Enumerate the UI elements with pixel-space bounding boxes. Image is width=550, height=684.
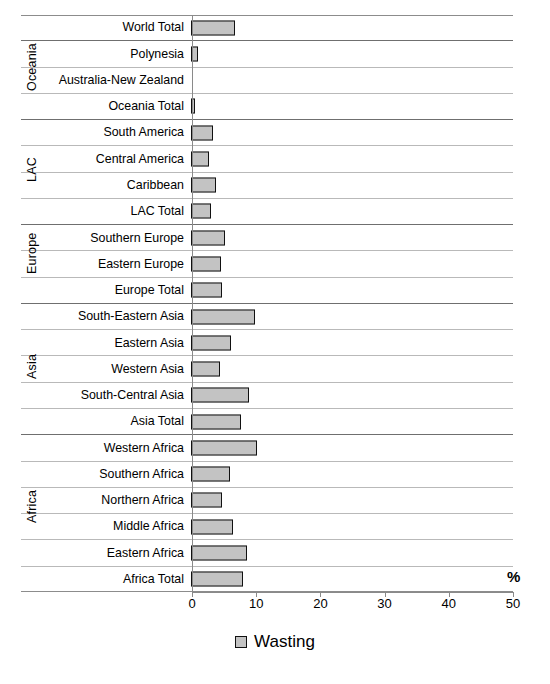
bar[interactable] [191, 309, 255, 324]
bar-row: Caribbean [21, 173, 513, 199]
group-label-slot [21, 199, 43, 224]
group-label-slot [21, 278, 43, 303]
group-label-lac: LAC [25, 160, 39, 182]
bar-track [191, 41, 513, 66]
bar-track [191, 409, 513, 434]
bar-track [191, 146, 513, 171]
bar[interactable] [191, 99, 195, 114]
category-label: Southern Africa [43, 468, 191, 480]
bar-track [191, 251, 513, 276]
category-label: South-Eastern Asia [43, 310, 191, 322]
bar-track [191, 488, 513, 513]
bar-track [191, 462, 513, 487]
group-label-slot [21, 435, 43, 460]
bar-row: Polynesia [21, 41, 513, 67]
bar[interactable] [191, 283, 222, 298]
bar-track [191, 68, 513, 93]
bar-row: Africa Total [21, 567, 513, 592]
group-label-slot [21, 383, 43, 408]
group-label-slot [21, 567, 43, 592]
group-label-africa: Africa [25, 501, 39, 523]
bar-track [191, 514, 513, 539]
bar[interactable] [191, 178, 216, 193]
category-label: Polynesia [43, 48, 191, 60]
bar[interactable] [191, 20, 235, 35]
bar[interactable] [191, 204, 211, 219]
bar[interactable] [191, 493, 222, 508]
bar-row: South-Central Asia [21, 383, 513, 409]
bar[interactable] [191, 230, 225, 245]
bar-track [191, 94, 513, 119]
group-label-oceania: Oceania [25, 69, 39, 91]
category-label: Asia Total [43, 415, 191, 427]
category-label: Eastern Europe [43, 258, 191, 270]
bar[interactable] [191, 257, 221, 272]
category-label: Western Africa [43, 442, 191, 454]
group-label-slot [21, 94, 43, 119]
bar-row: Southern Europe [21, 225, 513, 251]
category-label: Eastern Asia [43, 337, 191, 349]
bar[interactable] [191, 545, 247, 560]
bar[interactable] [191, 572, 243, 587]
bar-track [191, 225, 513, 250]
category-label: Southern Europe [43, 232, 191, 244]
group-label-asia: Asia [25, 357, 39, 379]
bar-track [191, 435, 513, 460]
bar-row: World Total [21, 15, 513, 41]
bar-row: Europe Total [21, 278, 513, 304]
category-label: Northern Africa [43, 494, 191, 506]
bar-row: Middle Africa [21, 514, 513, 540]
bar[interactable] [191, 335, 231, 350]
category-label: Australia-New Zealand [43, 74, 191, 86]
x-axis-tick-label: 20 [313, 596, 327, 611]
category-label: Central America [43, 153, 191, 165]
bar-row: Eastern Europe [21, 251, 513, 277]
bar-track [191, 304, 513, 329]
bar[interactable] [191, 362, 220, 377]
bar-track [191, 567, 513, 592]
bar[interactable] [191, 440, 257, 455]
bar-rows: World TotalPolynesiaAustralia-New Zealan… [21, 15, 513, 592]
group-label-slot [21, 462, 43, 487]
bar[interactable] [191, 388, 249, 403]
legend-swatch-wasting [235, 636, 247, 648]
bar-track [191, 540, 513, 565]
bar[interactable] [191, 467, 230, 482]
x-axis-tick-label: 40 [442, 596, 456, 611]
x-axis-unit-label: % [507, 568, 520, 585]
bar-row: Western Africa [21, 435, 513, 461]
bar-row: Oceania Total [21, 94, 513, 120]
category-label: Oceania Total [43, 100, 191, 112]
bar[interactable] [191, 125, 213, 140]
bar-track [191, 173, 513, 198]
bar[interactable] [191, 519, 233, 534]
plot-area: World TotalPolynesiaAustralia-New Zealan… [21, 15, 513, 592]
group-label-slot [21, 15, 43, 40]
bar-row: Western Asia [21, 356, 513, 382]
bar-track [191, 356, 513, 381]
bar-track [191, 120, 513, 145]
legend-label-wasting: Wasting [254, 633, 315, 650]
category-label: Western Asia [43, 363, 191, 375]
bar-track [191, 15, 513, 40]
bar-row: Asia Total [21, 409, 513, 435]
wasting-bar-chart: World TotalPolynesiaAustralia-New Zealan… [0, 0, 550, 684]
bar-row: LAC Total [21, 199, 513, 225]
group-label-slot [21, 409, 43, 434]
bar-row: Eastern Africa [21, 540, 513, 566]
bar[interactable] [191, 414, 241, 429]
group-label-slot [21, 304, 43, 329]
chart-legend: Wasting [0, 633, 550, 650]
bar[interactable] [191, 151, 209, 166]
bar-row: Northern Africa [21, 488, 513, 514]
category-label: Africa Total [43, 573, 191, 585]
x-axis [192, 592, 513, 593]
group-label-slot [21, 330, 43, 355]
x-axis-tick-label: 10 [249, 596, 263, 611]
bar-track [191, 278, 513, 303]
bar-track [191, 330, 513, 355]
category-label: South-Central Asia [43, 389, 191, 401]
category-label: Europe Total [43, 284, 191, 296]
group-label-slot [21, 540, 43, 565]
bar[interactable] [191, 46, 198, 61]
